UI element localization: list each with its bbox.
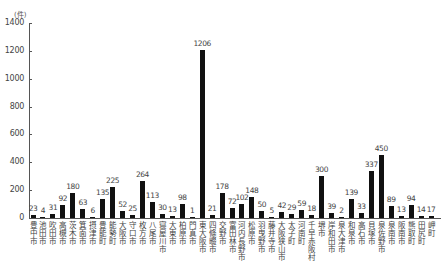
- x-category-label: 河南町: [297, 222, 306, 246]
- x-axis: [29, 218, 441, 219]
- x-category-label: 豊中市: [29, 222, 38, 246]
- y-tick-mark: [29, 162, 32, 163]
- y-tick-mark: [29, 218, 32, 219]
- bar: [419, 216, 424, 218]
- bar: [90, 217, 95, 218]
- x-category-label: 泉大津市: [337, 222, 346, 254]
- bar: [369, 171, 374, 218]
- bar: [130, 215, 135, 218]
- bar: [399, 216, 404, 218]
- y-tick-mark: [29, 134, 32, 135]
- x-category-label: 和泉市: [347, 222, 356, 246]
- x-category-label: 岸和田市: [327, 222, 336, 254]
- x-category-label: 富田林市: [228, 222, 237, 254]
- x-category-label: 岬町: [427, 222, 436, 238]
- x-category-label: 守口市: [128, 222, 137, 246]
- x-category-label: 大阪狭山市: [277, 222, 286, 262]
- x-category-label: 松原市: [247, 222, 256, 246]
- bar: [339, 217, 344, 218]
- x-category-label: 高槻市: [58, 222, 67, 246]
- y-tick-label: 1000: [0, 74, 24, 83]
- bar: [60, 205, 65, 218]
- x-category-label: 羽曳野市: [257, 222, 266, 254]
- y-tick-label: 0: [0, 213, 24, 222]
- x-category-label: 池田市: [38, 222, 47, 246]
- y-tick-label: 400: [0, 157, 24, 166]
- x-category-label: 八尾市: [148, 222, 157, 246]
- bar: [379, 155, 384, 218]
- bar-value-label: 1206: [192, 39, 212, 48]
- bar-value-label: 148: [242, 186, 262, 195]
- x-category-label: 箕面市: [78, 222, 87, 246]
- bar: [279, 212, 284, 218]
- x-category-label: 堺市: [317, 222, 326, 238]
- x-category-label: 熊取町: [407, 222, 416, 246]
- x-category-label: 能勢町: [108, 222, 117, 246]
- x-category-label: 柏原市: [178, 222, 187, 246]
- x-category-label: 大阪市: [118, 222, 127, 246]
- bar-value-label: 264: [132, 170, 152, 179]
- x-category-label: 田尻町: [417, 222, 426, 246]
- y-tick-label: 200: [0, 185, 24, 194]
- bar: [319, 176, 324, 218]
- x-category-label: 門真市: [188, 222, 197, 246]
- bar: [359, 213, 364, 218]
- x-category-label: 藤井寺市: [267, 222, 276, 254]
- bar: [309, 215, 314, 218]
- x-category-label: 太子町: [287, 222, 296, 246]
- bar: [170, 216, 175, 218]
- bar: [50, 214, 55, 218]
- x-category-label: 千早赤阪村: [307, 222, 316, 262]
- bar-value-label: 113: [142, 191, 162, 200]
- bar-value-label: 450: [371, 144, 391, 153]
- x-category-label: 枚方市: [138, 222, 147, 246]
- bar-value-label: 180: [63, 182, 83, 191]
- bar: [40, 217, 45, 218]
- x-category-label: 寝屋川市: [158, 222, 167, 254]
- x-category-label: 東大阪市: [198, 222, 207, 254]
- y-tick-label: 600: [0, 129, 24, 138]
- x-category-label: 四條畷市: [208, 222, 217, 254]
- bar-value-label: 94: [401, 194, 421, 203]
- bar-value-label: 300: [312, 165, 332, 174]
- bar: [160, 214, 165, 218]
- bar-value-label: 89: [381, 195, 401, 204]
- x-category-label: 交野市: [218, 222, 227, 246]
- x-category-label: 高石市: [357, 222, 366, 246]
- y-tick-mark: [29, 107, 32, 108]
- x-category-label: 河内長野市: [237, 222, 246, 262]
- bar: [429, 216, 434, 218]
- x-category-label: 吹田市: [48, 222, 57, 246]
- bar-value-label: 178: [212, 182, 232, 191]
- bar-value-label: 139: [341, 188, 361, 197]
- bar: [200, 50, 205, 218]
- bar: [230, 208, 235, 218]
- bar: [269, 217, 274, 218]
- x-category-label: 大東市: [168, 222, 177, 246]
- bar-value-label: 98: [172, 193, 192, 202]
- x-category-label: 泉南市: [387, 222, 396, 246]
- y-tick-label: 800: [0, 102, 24, 111]
- bar: [31, 215, 36, 218]
- x-category-label: 貝塚市: [367, 222, 376, 246]
- bar-value-label: 17: [421, 205, 441, 214]
- bar: [100, 199, 105, 218]
- x-category-label: 摂津市: [88, 222, 97, 246]
- x-category-label: 阪南市: [397, 222, 406, 246]
- y-tick-mark: [29, 190, 32, 191]
- y-tick-label: 1400: [0, 18, 24, 27]
- bar: [210, 215, 215, 218]
- x-category-label: 豊能町: [98, 222, 107, 246]
- bar: [190, 217, 195, 218]
- x-category-label: 泉佐野市: [377, 222, 386, 254]
- y-tick-label: 1200: [0, 46, 24, 55]
- bar-chart: (件) 0200400600800100012001400 23豊中市4池田市3…: [0, 0, 444, 268]
- y-tick-mark: [29, 23, 32, 24]
- y-tick-mark: [29, 51, 32, 52]
- y-tick-mark: [29, 79, 32, 80]
- x-category-label: 茨木市: [68, 222, 77, 246]
- bar: [289, 214, 294, 218]
- bar-value-label: 225: [103, 176, 123, 185]
- bar: [239, 204, 244, 218]
